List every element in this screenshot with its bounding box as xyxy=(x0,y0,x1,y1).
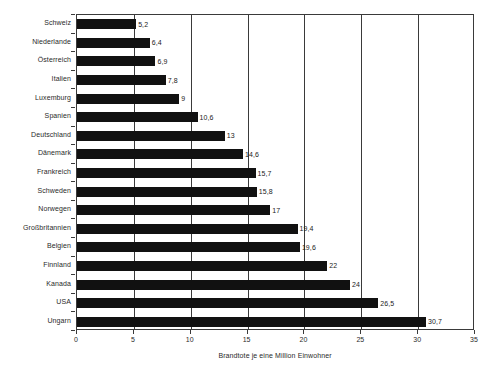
category-tick xyxy=(71,33,75,34)
x-tick xyxy=(133,330,134,334)
bar xyxy=(77,75,166,85)
category-label: Dänemark xyxy=(38,149,71,156)
x-tick-label: 25 xyxy=(356,336,364,343)
bar xyxy=(77,187,257,197)
bar-value-label: 9 xyxy=(179,95,185,102)
category-tick xyxy=(71,256,75,257)
bar-value-label: 14,6 xyxy=(243,151,259,158)
category-tick xyxy=(71,330,75,331)
bar-row: 6,9 xyxy=(77,56,473,66)
category-label: USA xyxy=(56,298,71,305)
x-tick-label: 20 xyxy=(300,336,308,343)
category-label: Spanien xyxy=(45,112,71,119)
bar xyxy=(77,131,225,141)
category-label: Norwegen xyxy=(38,205,71,212)
category-label: Deutschland xyxy=(31,131,71,138)
category-tick xyxy=(71,88,75,89)
bar-value-label: 7,8 xyxy=(166,77,178,84)
bar-value-label: 30,7 xyxy=(426,318,442,325)
bar-value-label: 19,4 xyxy=(298,225,314,232)
x-tick xyxy=(417,330,418,334)
bar xyxy=(77,94,179,104)
category-label: Schweiz xyxy=(44,19,71,26)
x-tick-label: 30 xyxy=(413,336,421,343)
category-label: Österreich xyxy=(38,56,71,63)
bar-row: 9 xyxy=(77,94,473,104)
bar-value-label: 15,8 xyxy=(257,188,273,195)
x-tick xyxy=(247,330,248,334)
bar xyxy=(77,112,198,122)
category-label: Belgien xyxy=(47,242,71,249)
category-tick xyxy=(71,237,75,238)
x-tick xyxy=(360,330,361,334)
category-tick xyxy=(71,181,75,182)
x-tick xyxy=(76,330,77,334)
category-tick xyxy=(71,107,75,108)
bar-value-label: 22 xyxy=(327,262,337,269)
x-tick xyxy=(303,330,304,334)
category-label: Frankreich xyxy=(37,168,71,175)
bar-row: 14,6 xyxy=(77,149,473,159)
category-label: Kanada xyxy=(46,280,71,287)
x-tick-label: 15 xyxy=(243,336,251,343)
bar xyxy=(77,19,136,29)
bar-row: 15,7 xyxy=(77,168,473,178)
category-label: Ungarn xyxy=(47,317,71,324)
category-tick xyxy=(71,144,75,145)
bar-row: 24 xyxy=(77,280,473,290)
category-tick xyxy=(71,311,75,312)
category-label: Finnland xyxy=(43,261,71,268)
bars-layer: 5,26,46,97,8910,61314,615,715,81719,419,… xyxy=(77,15,473,329)
x-tick-label: 0 xyxy=(74,336,78,343)
bar-row: 7,8 xyxy=(77,75,473,85)
x-tick-label: 5 xyxy=(131,336,135,343)
category-axis: SchweizNiederlandeÖsterreichItalienLuxem… xyxy=(0,14,71,330)
x-tick-label: 10 xyxy=(186,336,194,343)
bar xyxy=(77,224,298,234)
bar-row: 19,6 xyxy=(77,242,473,252)
bar-row: 22 xyxy=(77,261,473,271)
category-tick xyxy=(71,218,75,219)
bar-value-label: 15,7 xyxy=(256,170,272,177)
plot-area: 5,26,46,97,8910,61314,615,715,81719,419,… xyxy=(76,14,474,330)
bar xyxy=(77,205,270,215)
category-label: Großbritannien xyxy=(23,224,71,231)
category-label: Italien xyxy=(52,75,71,82)
category-tick xyxy=(71,274,75,275)
category-tick xyxy=(71,293,75,294)
category-tick xyxy=(71,14,75,15)
bar-value-label: 26,5 xyxy=(378,300,394,307)
bar xyxy=(77,149,243,159)
bar xyxy=(77,56,155,66)
category-tick xyxy=(71,70,75,71)
bar-value-label: 6,9 xyxy=(155,58,167,65)
bar xyxy=(77,38,150,48)
bar-value-label: 19,6 xyxy=(300,244,316,251)
bar-row: 30,7 xyxy=(77,317,473,327)
category-tick xyxy=(71,51,75,52)
bar xyxy=(77,168,256,178)
bar-value-label: 17 xyxy=(270,207,280,214)
bar xyxy=(77,317,426,327)
category-label: Schweden xyxy=(38,187,72,194)
bar-row: 10,6 xyxy=(77,112,473,122)
x-tick-label: 35 xyxy=(470,336,478,343)
category-tick xyxy=(71,126,75,127)
category-label: Niederlande xyxy=(32,38,71,45)
bar-row: 15,8 xyxy=(77,187,473,197)
x-tick xyxy=(190,330,191,334)
bar-value-label: 5,2 xyxy=(136,21,148,28)
bar-row: 6,4 xyxy=(77,38,473,48)
x-axis-title: Brandtote je eine Million Einwohner xyxy=(76,352,474,359)
bar-row: 17 xyxy=(77,205,473,215)
bar-value-label: 6,4 xyxy=(150,39,162,46)
bar-value-label: 24 xyxy=(350,281,360,288)
bar-chart: SchweizNiederlandeÖsterreichItalienLuxem… xyxy=(0,0,494,376)
bar xyxy=(77,261,327,271)
category-label: Luxemburg xyxy=(35,94,71,101)
bar-row: 26,5 xyxy=(77,298,473,308)
bar xyxy=(77,242,300,252)
bar-row: 13 xyxy=(77,131,473,141)
bar-value-label: 10,6 xyxy=(198,114,214,121)
bar-value-label: 13 xyxy=(225,132,235,139)
